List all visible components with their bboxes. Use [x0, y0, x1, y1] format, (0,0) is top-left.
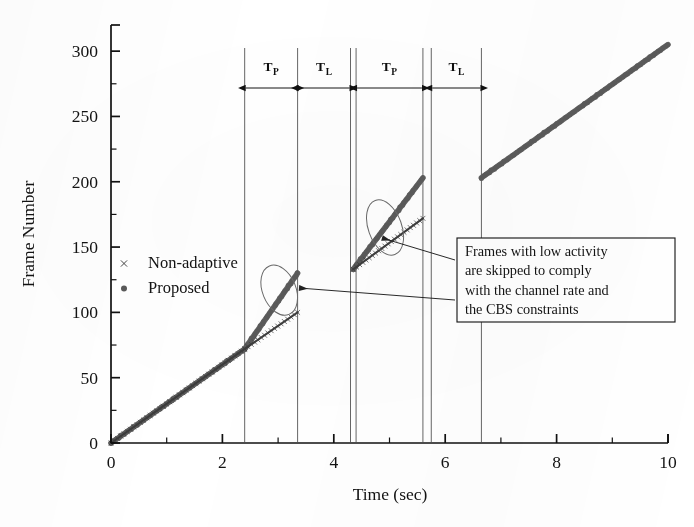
x-axis-title: Time (sec): [353, 484, 428, 504]
callout-line: with the channel rate and: [465, 282, 609, 298]
y-tick-label: 50: [81, 368, 99, 388]
callout-line: are skipped to comply: [465, 262, 593, 278]
x-tick-label: 6: [441, 452, 450, 472]
y-tick-label: 300: [72, 41, 99, 61]
x-tick-label: 4: [329, 452, 338, 472]
data-point: [665, 43, 670, 48]
x-tick-label: 8: [552, 452, 561, 472]
y-tick-label: 0: [89, 433, 98, 453]
callout-line: Frames with low activity: [465, 243, 608, 259]
data-point: [295, 270, 300, 275]
legend-label: Proposed: [148, 278, 210, 297]
figure-canvas: 0246810050100150200250300 TPTLTPTL Frame…: [0, 0, 694, 527]
y-axis-title: Frame Number: [18, 181, 38, 288]
x-tick-label: 2: [218, 452, 227, 472]
callout-line: the CBS constraints: [465, 301, 579, 317]
data-point: [420, 176, 425, 181]
y-tick-label: 250: [72, 106, 99, 126]
frame-number-vs-time-chart: 0246810050100150200250300 TPTLTPTL Frame…: [0, 0, 694, 527]
legend-label: Non-adaptive: [148, 253, 238, 272]
legend-marker-dot-icon: [121, 286, 127, 292]
y-tick-label: 150: [72, 237, 99, 257]
y-tick-label: 200: [72, 172, 99, 192]
y-tick-label: 100: [72, 302, 99, 322]
x-tick-label: 10: [659, 452, 677, 472]
x-tick-label: 0: [107, 452, 116, 472]
